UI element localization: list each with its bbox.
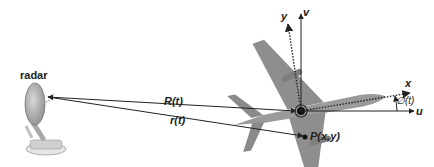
axis-u-label: u — [416, 106, 423, 117]
radar-geometry-diagram — [0, 0, 434, 167]
point-P — [303, 135, 308, 140]
angle-label: ∅(t) — [396, 96, 414, 106]
radar-label: radar — [20, 70, 48, 81]
range-label-r: r(t) — [170, 115, 185, 126]
point-label: P(x,y) — [310, 131, 340, 142]
axis-x-label: x — [405, 78, 411, 89]
range-label-R: R(t) — [164, 96, 183, 107]
axis-v-label: v — [303, 7, 309, 18]
aircraft-icon — [219, 21, 397, 167]
axis-y-label: y — [281, 11, 287, 22]
radar-icon — [25, 83, 66, 155]
